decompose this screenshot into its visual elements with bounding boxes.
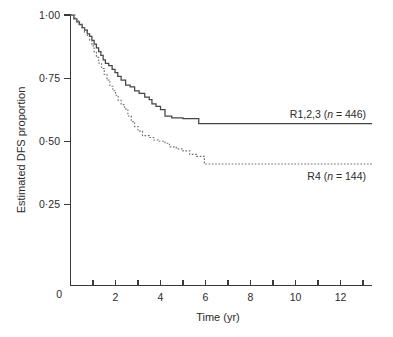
series-curves bbox=[71, 15, 373, 164]
x-tick-label-2: 2 bbox=[113, 291, 119, 303]
series-label-r123: R1,2,3 (n = 446) bbox=[290, 108, 366, 120]
x-tick-label-8: 8 bbox=[248, 291, 254, 303]
series-label-r4: R4 (n = 144) bbox=[307, 170, 366, 182]
curve-r4 bbox=[71, 15, 373, 164]
x-tick-label-12: 12 bbox=[335, 291, 347, 303]
y-tick-label-0: 0·25 bbox=[39, 198, 60, 210]
x-axis-tick-labels: 24681012 bbox=[113, 291, 347, 303]
y-tick-label-3: 1·00 bbox=[39, 9, 60, 21]
y-axis-group: 0·250·500·751·00 bbox=[39, 9, 71, 286]
x-axis-group: 24681012 bbox=[70, 280, 372, 304]
x-axis-title: Time (yr) bbox=[196, 311, 240, 323]
x-tick-label-10: 10 bbox=[290, 291, 302, 303]
x-axis-ticks bbox=[71, 280, 364, 286]
chart-canvas: 0·250·500·751·00 24681012 0 Time (yr) Es… bbox=[0, 0, 393, 337]
y-axis-tick-labels: 0·250·500·751·00 bbox=[39, 9, 60, 210]
x-tick-label-6: 6 bbox=[203, 291, 209, 303]
x-tick-label-4: 4 bbox=[158, 291, 164, 303]
kaplan-meier-figure: 0·250·500·751·00 24681012 0 Time (yr) Es… bbox=[0, 0, 393, 337]
series-inline-labels: R1,2,3 (n = 446)R4 (n = 144) bbox=[290, 108, 366, 182]
y-axis-origin-label: 0 bbox=[56, 288, 62, 300]
y-tick-label-2: 0·75 bbox=[39, 72, 60, 84]
y-tick-label-1: 0·50 bbox=[39, 135, 60, 147]
y-axis-ticks bbox=[64, 15, 71, 204]
y-axis-title: Estimated DFS proportion bbox=[15, 87, 27, 214]
